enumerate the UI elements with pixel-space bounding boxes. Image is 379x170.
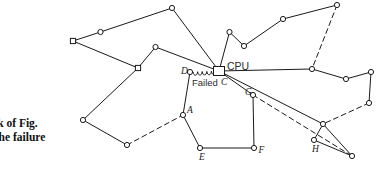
link-dashed-n15-n16	[323, 103, 369, 124]
link-solid-n1-n4	[73, 41, 138, 68]
link-solid-n6-n7	[83, 120, 127, 145]
network-node	[124, 142, 129, 147]
link-solid-n9-n10	[244, 19, 283, 46]
network-node-h	[311, 137, 316, 142]
network-node	[227, 29, 232, 34]
link-solid-n16-n17	[323, 124, 352, 156]
link-solid-c-n16	[219, 71, 323, 124]
figure-caption: work of Fig. ter the failure	[0, 117, 88, 144]
cpu-box	[214, 67, 225, 76]
link-solid-n14-n15	[369, 72, 371, 103]
network-node	[334, 2, 339, 7]
link-solid-n1-n2	[73, 32, 101, 41]
node-label-e: E	[198, 152, 205, 162]
network-node	[366, 100, 371, 105]
network-node	[320, 121, 325, 126]
network-node-e	[197, 145, 202, 150]
network-node-d	[187, 69, 192, 74]
network-node	[241, 43, 246, 48]
node-label-a: A	[186, 105, 193, 115]
network-diagram: CPU Failed C DAEFGH	[0, 0, 379, 170]
caption-line-1: work of Fig.	[0, 117, 88, 131]
link-solid-n2-n3	[101, 8, 173, 32]
network-node	[309, 66, 314, 71]
node-label-d: D	[180, 66, 188, 76]
link-solid-a-e	[183, 115, 200, 148]
network-node	[280, 16, 285, 21]
cpu-label: CPU	[227, 60, 249, 72]
link-solid-n4-n6	[83, 68, 138, 120]
link-dashed-n11-n12	[312, 5, 337, 69]
network-node	[153, 44, 158, 49]
node-label-f: F	[258, 145, 265, 155]
link-solid-f-g	[253, 95, 254, 148]
node-label-c: C	[221, 77, 228, 87]
network-node	[98, 29, 103, 34]
network-node	[368, 69, 373, 74]
network-node-f	[251, 145, 256, 150]
caption-line-2: ter the failure	[0, 131, 88, 145]
network-node	[135, 65, 140, 70]
link-solid-n10-n11	[283, 5, 337, 19]
link-dashed-g-n17	[253, 95, 352, 156]
figure-root: CPU Failed C DAEFGH work of Fig. ter the…	[0, 0, 379, 170]
link-solid-n4-n5	[138, 47, 156, 68]
node-label-h: H	[311, 144, 320, 154]
network-node	[70, 38, 75, 43]
link-solid-n12-n13	[312, 69, 346, 79]
link-solid-n3-c	[172, 8, 219, 71]
link-solid-n13-n14	[346, 72, 371, 79]
network-node	[169, 5, 174, 10]
failed-link-label: Failed	[192, 77, 218, 88]
network-node	[343, 76, 348, 81]
network-node	[349, 153, 354, 158]
node-label-g: G	[245, 87, 252, 97]
network-node-a	[180, 112, 185, 117]
link-solid-h-n17	[314, 140, 352, 156]
link-dashed-n7-a	[127, 115, 183, 145]
